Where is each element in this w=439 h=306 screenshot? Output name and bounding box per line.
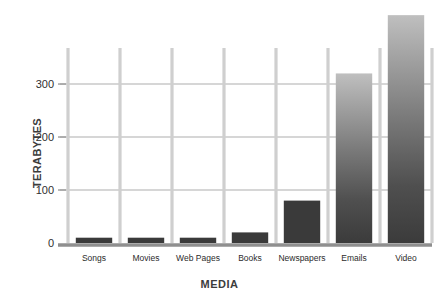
bar-video [388, 15, 424, 243]
bar-emails [336, 73, 372, 243]
x-category-label: Books [238, 253, 262, 263]
bar-web-pages [180, 238, 216, 243]
bar-movies [128, 238, 164, 243]
x-category-label: Movies [133, 253, 160, 263]
bar-newspapers [284, 201, 320, 243]
bars-group [76, 15, 424, 243]
y-tick-label: 300 [36, 78, 54, 90]
x-category-labels: SongsMoviesWeb PagesBooksNewspapersEmail… [82, 253, 417, 263]
y-tick-label: 0 [48, 237, 54, 249]
horizontal-gridlines [60, 84, 432, 190]
x-category-label: Video [395, 253, 417, 263]
plot-area: 0100200300 SongsMoviesWeb PagesBooksNews… [0, 0, 439, 306]
vertical-gridlines [68, 48, 432, 243]
y-tick-label: 100 [36, 184, 54, 196]
x-category-label: Web Pages [176, 253, 220, 263]
x-category-label: Songs [82, 253, 106, 263]
y-tick-label: 200 [36, 131, 54, 143]
bar-songs [76, 238, 112, 243]
bar-chart: TERABYTES 0100200300 SongsMoviesWeb Page… [0, 0, 439, 306]
bar-books [232, 232, 268, 243]
x-axis-title: MEDIA [0, 278, 439, 290]
x-category-label: Emails [341, 253, 367, 263]
x-category-label: Newspapers [278, 253, 325, 263]
y-tick-labels: 0100200300 [36, 78, 66, 249]
